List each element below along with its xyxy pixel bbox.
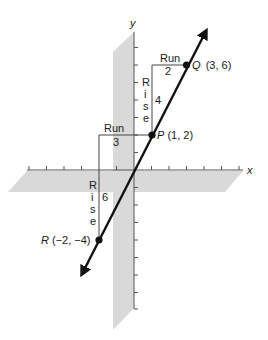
rise-value-1: 4 [155,94,161,106]
rise-label-2-i: i [91,191,93,203]
run-label-2: Run [104,122,124,134]
rise-label-2-s: s [90,203,96,215]
point-p [148,131,155,138]
rise-label-2-e: e [90,215,96,227]
rise-value-2: 6 [102,191,108,203]
rise-label-2-r: R [89,179,97,191]
point-p-label: P (1, 2) [157,129,193,141]
rise-label-1-i: i [144,88,146,100]
point-r-coords: (−2, −4) [52,234,91,246]
run-label-1: Run [160,52,180,64]
point-q-name: Q [192,59,201,71]
y-axis-label: y [129,17,137,29]
rise-label-1-r: R [142,76,150,88]
point-r-label: R (−2, −4) [41,234,91,246]
run-value-1: 2 [165,65,171,77]
slope-line [83,33,205,272]
point-q-coords: (3, 6) [206,59,232,71]
point-r-name: R [41,234,49,246]
rise-label-1-s: s [143,100,149,112]
rise-label-1-e: e [143,112,149,124]
point-p-name: P [157,129,165,141]
run-value-2: 3 [113,136,119,148]
point-q [183,61,190,68]
point-q-label: Q (3, 6) [192,59,231,71]
point-r [95,236,102,243]
slope-diagram: x y Run 2 R i [0,0,268,340]
point-p-coords: (1, 2) [167,129,193,141]
x-axis-label: x [246,164,253,176]
